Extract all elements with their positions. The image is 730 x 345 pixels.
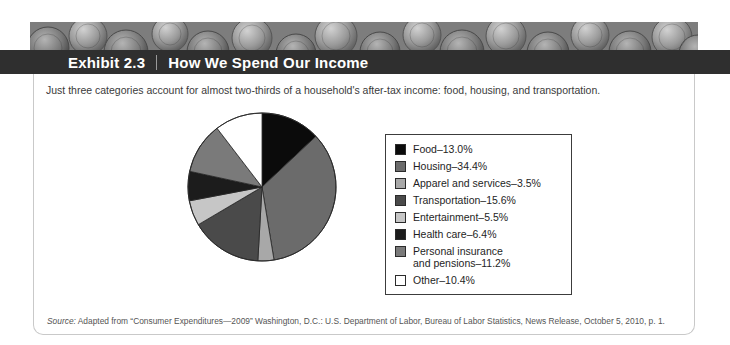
legend-item-apparel-and-services: Apparel and services–3.5% bbox=[395, 177, 562, 189]
pie-chart bbox=[187, 112, 337, 262]
legend-swatch-health-care bbox=[395, 229, 406, 240]
chart-legend: Food–13.0% Housing–34.4% Apparel and ser… bbox=[385, 134, 572, 295]
source-note: Source: Adapted from “Consumer Expenditu… bbox=[47, 316, 677, 327]
source-prefix: Source: bbox=[47, 316, 76, 326]
legend-item-entertainment: Entertainment–5.5% bbox=[395, 211, 562, 223]
chart-area: Food–13.0% Housing–34.4% Apparel and ser… bbox=[33, 100, 695, 300]
legend-label-personal-insurance-and-pensions: Personal insurance and pensions–11.2% bbox=[413, 245, 510, 269]
legend-item-food: Food–13.0% bbox=[395, 143, 562, 155]
legend-swatch-housing bbox=[395, 161, 406, 172]
exhibit-number: Exhibit 2.3 bbox=[68, 54, 145, 71]
legend-swatch-personal-insurance-and-pensions bbox=[395, 246, 406, 257]
legend-label-transportation: Transportation–15.6% bbox=[413, 194, 516, 206]
legend-item-housing: Housing–34.4% bbox=[395, 160, 562, 172]
legend-label-housing: Housing–34.4% bbox=[413, 160, 487, 172]
legend-swatch-other bbox=[395, 275, 406, 286]
source-text: Adapted from “Consumer Expenditures—2009… bbox=[76, 316, 665, 326]
legend-label-food: Food–13.0% bbox=[413, 143, 473, 155]
legend-swatch-apparel-and-services bbox=[395, 178, 406, 189]
page-title: How We Spend Our Income bbox=[168, 54, 368, 71]
legend-swatch-food bbox=[395, 144, 406, 155]
legend-label-entertainment: Entertainment–5.5% bbox=[413, 211, 508, 223]
legend-item-personal-insurance-and-pensions: Personal insurance and pensions–11.2% bbox=[395, 245, 562, 269]
header-divider bbox=[156, 55, 157, 70]
legend-item-other: Other–10.4% bbox=[395, 274, 562, 286]
exhibit-header-content: Exhibit 2.3 How We Spend Our Income bbox=[68, 52, 368, 72]
legend-label-other: Other–10.4% bbox=[413, 274, 475, 286]
legend-item-health-care: Health care–6.4% bbox=[395, 228, 562, 240]
legend-item-transportation: Transportation–15.6% bbox=[395, 194, 562, 206]
legend-swatch-entertainment bbox=[395, 212, 406, 223]
caption-text: Just three categories account for almost… bbox=[46, 84, 646, 97]
legend-swatch-transportation bbox=[395, 195, 406, 206]
legend-label-apparel-and-services: Apparel and services–3.5% bbox=[413, 177, 541, 189]
legend-label-health-care: Health care–6.4% bbox=[413, 228, 496, 240]
